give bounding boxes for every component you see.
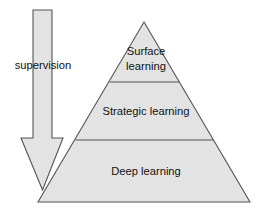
tier-label-strategic-line-1: Strategic learning xyxy=(102,105,189,117)
tier-label-strategic: Strategic learning xyxy=(102,105,189,117)
tier-label-deep: Deep learning xyxy=(111,165,181,177)
tier-label-deep-line-1: Deep learning xyxy=(111,165,181,177)
supervision-arrow-icon xyxy=(21,10,63,190)
tier-label-surface-line-2: learning xyxy=(126,60,166,72)
diagram-canvas: Surface learning Strategic learning Deep… xyxy=(0,0,267,214)
supervision-arrow-group xyxy=(21,10,63,190)
learning-pyramid-diagram: Surface learning Strategic learning Deep… xyxy=(0,0,267,214)
supervision-arrow-label: supervision xyxy=(15,59,72,71)
tier-label-surface-line-1: Surface xyxy=(127,45,166,57)
